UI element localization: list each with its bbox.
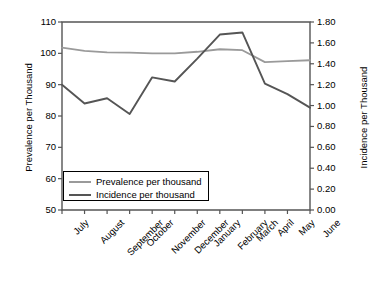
y-tick-label-left: 90 — [26, 79, 56, 90]
y-tick-label-right: 1.20 — [317, 79, 349, 90]
legend-label-incidence: Incidence per thousand — [96, 190, 195, 200]
y-tick-label-left: 70 — [26, 141, 56, 152]
legend-item-prevalence: Prevalence per thousand — [69, 175, 202, 188]
y-tick-label-right: 0.20 — [317, 183, 349, 194]
y-tick-label-right: 0.60 — [317, 141, 349, 152]
legend-item-incidence: Incidence per thousand — [69, 188, 195, 201]
y-tick-label-right: 1.80 — [317, 16, 349, 27]
legend-label-prevalence: Prevalence per thousand — [96, 177, 202, 187]
chart-legend: Prevalence per thousand Incidence per th… — [63, 171, 209, 201]
y-tick-label-left: 110 — [26, 16, 56, 27]
y-tick-label-right: 0.40 — [317, 162, 349, 173]
y-tick-label-right: 1.00 — [317, 100, 349, 111]
chart-container: Prevalence per Thousand Incidence per Th… — [0, 0, 379, 284]
series-line-incidence — [62, 32, 310, 113]
y-tick-label-left: 60 — [26, 173, 56, 184]
legend-swatch-prevalence — [69, 181, 91, 183]
y-tick-label-left: 50 — [26, 204, 56, 215]
y-tick-label-right: 0.00 — [317, 204, 349, 215]
y-tick-label-right: 1.40 — [317, 58, 349, 69]
y-tick-label-left: 80 — [26, 110, 56, 121]
y-tick-label-right: 0.80 — [317, 120, 349, 131]
legend-swatch-incidence — [69, 194, 91, 196]
series-line-prevalence — [62, 48, 310, 62]
y-tick-label-right: 1.60 — [317, 37, 349, 48]
y-tick-label-left: 100 — [26, 47, 56, 58]
